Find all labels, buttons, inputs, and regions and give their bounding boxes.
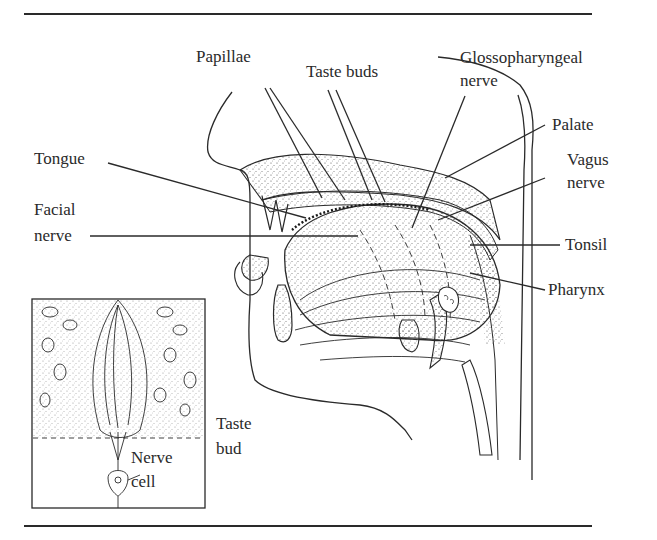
larynx <box>462 360 492 455</box>
label-pharynx: Pharynx <box>548 278 605 301</box>
label-vagus-2: nerve <box>567 171 605 194</box>
upper-lip <box>242 255 269 280</box>
label-tongue: Tongue <box>34 147 85 170</box>
label-facial-1: Facial <box>34 198 76 221</box>
taste-bud-inset <box>32 299 205 508</box>
label-palate: Palate <box>552 113 594 136</box>
hyoid <box>399 320 419 352</box>
label-glossopharyngeal-1: Glossopharyngeal <box>460 46 583 69</box>
label-tonsil: Tonsil <box>565 233 607 256</box>
label-taste-bud-1: Taste <box>216 412 252 435</box>
label-vagus-1: Vagus <box>567 148 609 171</box>
label-nerve-cell-2: cell <box>131 470 156 493</box>
label-facial-2: nerve <box>34 224 72 247</box>
label-taste-buds: Taste buds <box>306 60 378 83</box>
label-taste-bud-2: bud <box>216 437 242 460</box>
label-papillae: Papillae <box>196 45 251 68</box>
label-nerve-cell-1: Nerve <box>131 446 173 469</box>
lower-jaw-bone <box>274 285 293 342</box>
label-glossopharyngeal-2: nerve <box>460 69 498 92</box>
